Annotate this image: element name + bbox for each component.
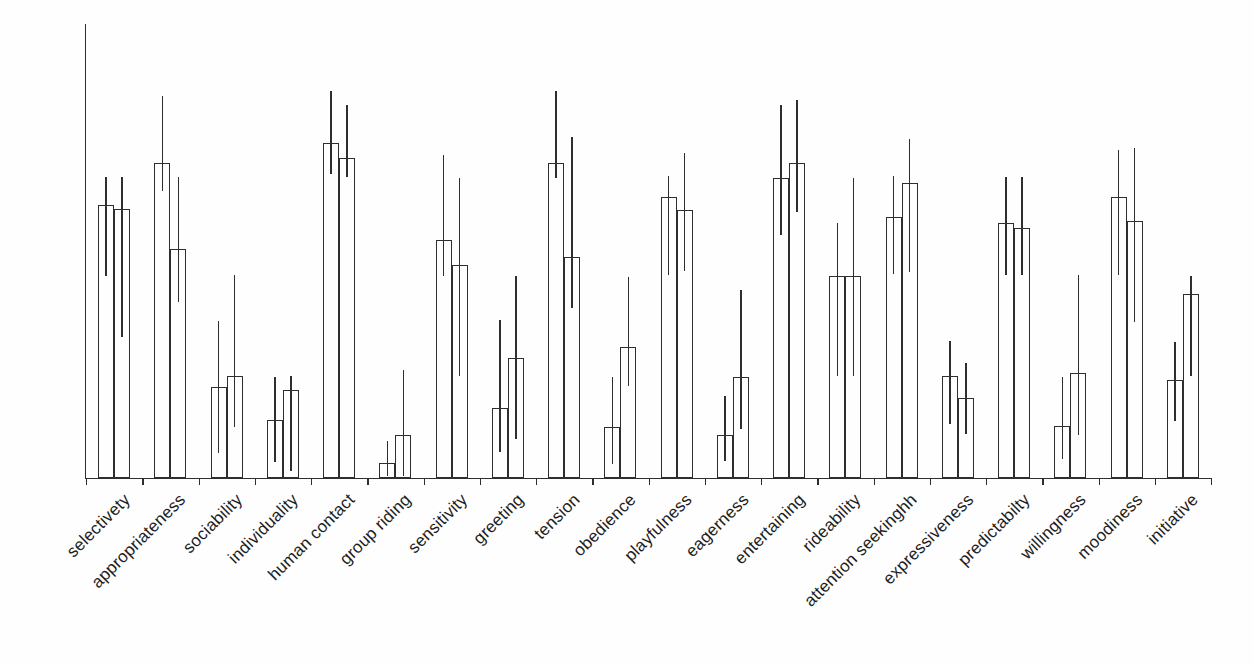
x-tick-10: [649, 478, 650, 485]
error-bar-human-contact-1: [330, 91, 331, 174]
x-label-sensitivity: sensitivity: [404, 490, 472, 558]
x-tick-13: [817, 478, 818, 485]
error-bar-appropriateness-2: [178, 177, 179, 302]
x-tick-17: [1042, 478, 1043, 485]
error-bar-willingness-2: [1078, 275, 1079, 435]
error-bar-initiative-1: [1174, 342, 1175, 421]
error-bar-expressiveness-1: [949, 341, 950, 424]
bar-human-contact-1: [323, 143, 339, 478]
error-bar-sociability-1: [218, 321, 219, 453]
x-tick-19: [1155, 478, 1156, 485]
bar-appropriateness-1: [154, 163, 170, 478]
error-bar-greeting-1: [499, 320, 500, 452]
error-bar-eagerness-1: [724, 396, 725, 461]
x-tick-7: [480, 478, 481, 485]
y-axis: [85, 24, 86, 479]
error-bar-individuality-2: [290, 376, 291, 471]
bar-tension-1: [548, 163, 564, 478]
error-bar-eagerness-2: [740, 290, 741, 429]
error-bar-obedience-2: [628, 277, 629, 386]
x-label-greeting: greeting: [469, 490, 528, 549]
x-tick-8: [536, 478, 537, 485]
error-bar-playfulness-2: [684, 153, 685, 271]
error-bar-obedience-1: [612, 377, 613, 464]
x-label-tension: tension: [530, 490, 584, 544]
error-bar-predictabilty-1: [1005, 177, 1006, 275]
x-tick-15: [930, 478, 931, 485]
error-bar-moodiness-1: [1118, 150, 1119, 275]
x-tick-5: [367, 478, 368, 485]
x-tick-2: [199, 478, 200, 485]
bar-chart-figure: selectivetyappropriatenesssociabilityind…: [0, 0, 1254, 664]
error-bar-greeting-2: [515, 276, 516, 439]
error-bar-entertaining-1: [780, 105, 781, 235]
x-tick-3: [255, 478, 256, 485]
error-bar-selectivety-1: [105, 177, 106, 276]
error-bar-appropriateness-1: [162, 96, 163, 191]
error-bar-selectivety-2: [121, 177, 122, 337]
error-bar-moodiness-2: [1134, 148, 1135, 322]
x-tick-12: [761, 478, 762, 485]
x-tick-4: [311, 478, 312, 485]
error-bar-sociability-2: [234, 275, 235, 427]
x-tick-1: [142, 478, 143, 485]
error-bar-individuality-1: [274, 377, 275, 462]
x-label-initiative: initiative: [1144, 490, 1203, 549]
x-tick-9: [592, 478, 593, 485]
error-bar-expressiveness-2: [965, 363, 966, 434]
error-bar-tension-2: [571, 137, 572, 308]
x-tick-14: [874, 478, 875, 485]
error-bar-entertaining-2: [796, 100, 797, 212]
error-bar-playfulness-1: [668, 176, 669, 275]
x-tick-16: [986, 478, 987, 485]
error-bar-group-riding-1: [387, 441, 388, 476]
x-tick-18: [1099, 478, 1100, 485]
error-bar-human-contact-2: [346, 105, 347, 177]
error-bar-group-riding-2: [403, 370, 404, 476]
error-bar-tension-1: [555, 91, 556, 178]
error-bar-predictabilty-2: [1021, 177, 1022, 275]
x-tick-11: [705, 478, 706, 485]
error-bar-attention-seekinghh-1: [893, 176, 894, 274]
error-bar-initiative-2: [1190, 276, 1191, 376]
error-bar-rideability-2: [853, 178, 854, 376]
bar-human-contact-2: [339, 158, 355, 478]
x-tick-20: [1211, 478, 1212, 485]
error-bar-attention-seekinghh-2: [909, 139, 910, 272]
error-bar-sensitivity-1: [443, 155, 444, 276]
error-bar-sensitivity-2: [459, 178, 460, 376]
x-tick-0: [86, 478, 87, 485]
error-bar-willingness-1: [1062, 377, 1063, 459]
x-tick-6: [424, 478, 425, 485]
error-bar-rideability-1: [837, 223, 838, 376]
